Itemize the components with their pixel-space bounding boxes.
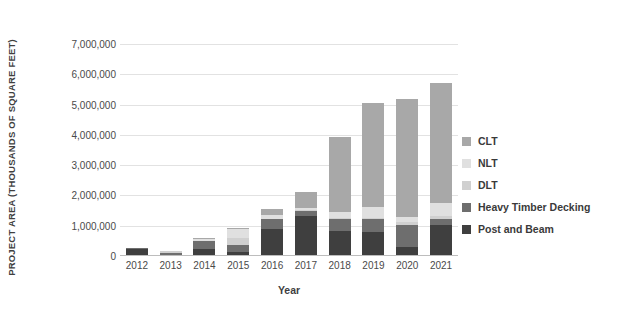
bar-column[interactable] <box>430 44 452 256</box>
y-tick-label: 6,000,000 <box>26 69 116 80</box>
legend-item[interactable]: DLT <box>462 174 622 196</box>
bar-column[interactable] <box>362 44 384 256</box>
stacked-bar-chart: PROJECT AREA (THOUSANDS OF SQUARE FEET) … <box>0 0 624 315</box>
y-tick-label: 1,000,000 <box>26 220 116 231</box>
plot-area <box>120 44 458 256</box>
y-tick-label: 5,000,000 <box>26 99 116 110</box>
bar-segment[interactable] <box>362 232 384 256</box>
legend-swatch-icon <box>462 181 471 190</box>
bar-column[interactable] <box>126 44 148 256</box>
bar-column[interactable] <box>261 44 283 256</box>
bar-column[interactable] <box>295 44 317 256</box>
legend-item[interactable]: Heavy Timber Decking <box>462 196 622 218</box>
x-tick-label: 2016 <box>257 260 287 276</box>
bar-segment[interactable] <box>362 103 384 207</box>
y-tick-label: 3,000,000 <box>26 160 116 171</box>
bar-segment[interactable] <box>227 238 249 245</box>
bar-column[interactable] <box>160 44 182 256</box>
bar-column[interactable] <box>193 44 215 256</box>
bar-segment[interactable] <box>227 245 249 253</box>
legend-item[interactable]: NLT <box>462 152 622 174</box>
bar-segment[interactable] <box>430 225 452 256</box>
x-tick-label: 2014 <box>189 260 219 276</box>
bar-segment[interactable] <box>362 219 384 232</box>
legend-label: Post and Beam <box>478 223 554 235</box>
bar-segment[interactable] <box>329 219 351 232</box>
x-tick-label: 2018 <box>325 260 355 276</box>
bar-column[interactable] <box>396 44 418 256</box>
legend-label: DLT <box>478 179 498 191</box>
bar-segment[interactable] <box>295 216 317 256</box>
bar-segment[interactable] <box>329 137 351 212</box>
legend-swatch-icon <box>462 137 471 146</box>
bar-segment[interactable] <box>430 203 452 217</box>
bar-segment[interactable] <box>261 229 283 256</box>
bar-segment[interactable] <box>261 219 283 229</box>
bar-segment[interactable] <box>295 192 317 208</box>
y-tick-label: 4,000,000 <box>26 129 116 140</box>
chart-legend: CLTNLTDLTHeavy Timber DeckingPost and Be… <box>462 130 622 240</box>
bar-segment[interactable] <box>193 241 215 249</box>
y-tick-label: 2,000,000 <box>26 190 116 201</box>
x-axis-title: Year <box>120 284 458 296</box>
x-tick-label: 2017 <box>291 260 321 276</box>
legend-item[interactable]: Post and Beam <box>462 218 622 240</box>
x-tick-label: 2020 <box>392 260 422 276</box>
bar-segment[interactable] <box>362 207 384 218</box>
legend-swatch-icon <box>462 203 471 212</box>
bar-segment[interactable] <box>396 99 418 218</box>
bar-segment[interactable] <box>227 229 249 238</box>
legend-label: CLT <box>478 135 498 147</box>
x-axis-line <box>120 255 458 256</box>
bar-column[interactable] <box>329 44 351 256</box>
x-tick-label: 2013 <box>156 260 186 276</box>
x-tick-label: 2021 <box>426 260 456 276</box>
legend-label: Heavy Timber Decking <box>478 201 590 213</box>
y-axis-title: PROJECT AREA (THOUSANDS OF SQUARE FEET) <box>0 0 22 315</box>
legend-swatch-icon <box>462 225 471 234</box>
bar-segment[interactable] <box>329 231 351 256</box>
legend-item[interactable]: CLT <box>462 130 622 152</box>
x-tick-label: 2015 <box>223 260 253 276</box>
x-tick-label: 2012 <box>122 260 152 276</box>
legend-label: NLT <box>478 157 498 169</box>
bar-segment[interactable] <box>430 83 452 202</box>
bar-column[interactable] <box>227 44 249 256</box>
y-axis-tick-labels: 01,000,0002,000,0003,000,0004,000,0005,0… <box>26 44 116 260</box>
y-tick-label: 0 <box>26 251 116 262</box>
x-axis-tick-labels: 2012201320142015201620172018201920202021 <box>120 260 458 276</box>
legend-swatch-icon <box>462 159 471 168</box>
bar-group <box>120 44 458 256</box>
bar-segment[interactable] <box>396 225 418 247</box>
y-tick-label: 7,000,000 <box>26 39 116 50</box>
x-tick-label: 2019 <box>358 260 388 276</box>
